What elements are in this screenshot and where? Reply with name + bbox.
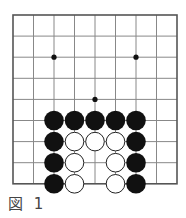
white-stone xyxy=(106,175,125,194)
white-stone xyxy=(65,175,84,194)
white-stone xyxy=(86,132,105,151)
black-stone xyxy=(106,111,126,131)
white-stone xyxy=(65,132,84,151)
black-stone xyxy=(85,111,105,131)
star-point xyxy=(51,55,56,60)
star-point xyxy=(92,97,97,102)
black-stone xyxy=(126,132,146,152)
black-stone xyxy=(126,174,146,194)
star-point xyxy=(133,55,138,60)
black-stone xyxy=(44,132,64,152)
black-stone xyxy=(65,111,85,131)
black-stone xyxy=(126,111,146,131)
white-stone xyxy=(106,132,125,151)
white-stone xyxy=(65,153,84,172)
white-stone xyxy=(106,153,125,172)
go-board xyxy=(0,0,186,218)
black-stone xyxy=(44,111,64,131)
black-stone xyxy=(126,153,146,173)
black-stone xyxy=(44,174,64,194)
black-stone xyxy=(44,153,64,173)
figure-caption: 図 1 xyxy=(8,195,46,213)
